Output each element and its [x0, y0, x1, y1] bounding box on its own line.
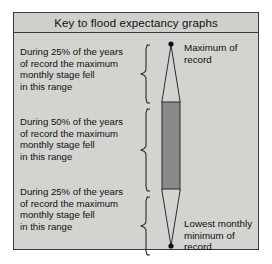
minimum-marker-dot: [168, 243, 173, 248]
interquartile-brace: [140, 108, 151, 192]
annotation-line: Maximum of: [184, 42, 262, 54]
description-line: in this range: [20, 81, 148, 93]
annotation-line: record: [184, 54, 262, 66]
page-title: Key to flood expectancy graphs: [54, 17, 217, 29]
upper-quartile-brace: [140, 44, 151, 104]
description-line: of record the maximum: [20, 128, 148, 140]
interquartile-description: During 50% of the years of record the ma…: [20, 116, 148, 162]
lower-quartile-brace: [140, 196, 151, 256]
figure-title-bar: Key to flood expectancy graphs: [14, 13, 258, 33]
lower-whisker-shape: [162, 189, 180, 246]
lowest-minimum-of-record-label: Lowest monthly minimum of record: [184, 218, 262, 253]
description-line: monthly stage fell: [20, 139, 148, 151]
description-line: of record the maximum: [20, 198, 148, 210]
upper-quartile-description: During 25% of the years of record the ma…: [20, 46, 148, 92]
description-line: in this range: [20, 151, 148, 163]
maximum-marker-dot: [168, 41, 173, 46]
flood-expectancy-key-figure: Key to flood expectancy graphs During 25…: [13, 12, 259, 250]
annotation-line: minimum of: [184, 230, 262, 242]
upper-whisker-shape: [162, 45, 180, 103]
description-line: in this range: [20, 221, 148, 233]
description-line: monthly stage fell: [20, 209, 148, 221]
maximum-of-record-label: Maximum of record: [184, 42, 262, 65]
description-line: During 50% of the years: [20, 116, 148, 128]
description-line: monthly stage fell: [20, 69, 148, 81]
box-and-whisker-symbol: [154, 33, 188, 251]
description-line: During 25% of the years: [20, 46, 148, 58]
figure-body: During 25% of the years of record the ma…: [14, 33, 258, 249]
annotation-line: Lowest monthly: [184, 218, 262, 230]
lower-quartile-description: During 25% of the years of record the ma…: [20, 186, 148, 232]
interquartile-box-shape: [162, 102, 180, 190]
description-line: During 25% of the years: [20, 186, 148, 198]
description-line: of record the maximum: [20, 58, 148, 70]
annotation-line: record: [184, 241, 262, 253]
